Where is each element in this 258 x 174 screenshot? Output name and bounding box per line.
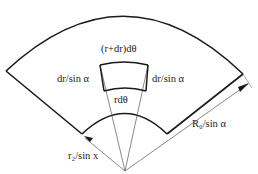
label-left-side: dr/sin α xyxy=(57,74,89,85)
inner-arc xyxy=(82,114,167,135)
label-bottom-element: rdθ xyxy=(114,95,128,106)
label-right-side: dr/sin α xyxy=(152,74,184,85)
element-right-side xyxy=(146,65,148,91)
outer-radius-line xyxy=(125,84,248,171)
label-outer-radius: R₀/sin α xyxy=(192,119,226,130)
outer-radius-arrowhead xyxy=(238,83,249,92)
element-top-arc xyxy=(100,62,148,65)
sector-diagram xyxy=(0,0,258,174)
element-mid-arc xyxy=(104,88,146,91)
label-inner-radius: r₂/sin x xyxy=(68,151,98,162)
label-top-element: (r+dr)dθ xyxy=(101,44,136,55)
